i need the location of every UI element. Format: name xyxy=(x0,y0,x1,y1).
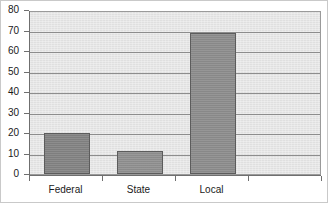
y-tick-label-80: 80 xyxy=(0,5,19,15)
y-tick-20 xyxy=(24,133,29,134)
y-tick-label-10: 10 xyxy=(0,149,19,159)
bar-state xyxy=(117,151,163,174)
y-tick-label-60: 60 xyxy=(0,46,19,56)
x-axis-label-state: State xyxy=(127,184,150,195)
gridline-30 xyxy=(30,114,320,115)
y-tick-label-30: 30 xyxy=(0,108,19,118)
y-tick-label-20: 20 xyxy=(0,128,19,138)
bar-texture xyxy=(118,152,162,173)
y-tick-label-40: 40 xyxy=(0,87,19,97)
y-tick-label-70: 70 xyxy=(0,26,19,36)
gridline-80 xyxy=(30,11,320,12)
y-tick-70 xyxy=(24,31,29,32)
x-tick-2 xyxy=(175,176,176,181)
gridline-70 xyxy=(30,32,320,33)
y-tick-label-0: 0 xyxy=(0,169,19,179)
y-tick-60 xyxy=(24,51,29,52)
y-tick-80 xyxy=(24,10,29,11)
y-tick-label-50: 50 xyxy=(0,67,19,77)
gridline-50 xyxy=(30,73,320,74)
bar-chart-figure: 01020304050607080 FederalStateLocal xyxy=(0,0,328,203)
y-tick-0 xyxy=(24,174,29,175)
bar-federal xyxy=(44,133,90,174)
x-axis-label-local: Local xyxy=(200,184,224,195)
x-tick-1 xyxy=(102,176,103,181)
y-axis-line xyxy=(29,11,30,176)
gridline-60 xyxy=(30,52,320,53)
plot-area xyxy=(29,11,321,175)
bar-local xyxy=(190,33,236,174)
x-tick-0 xyxy=(29,176,30,181)
gridline-40 xyxy=(30,93,320,94)
y-tick-10 xyxy=(24,154,29,155)
bar-texture xyxy=(191,34,235,173)
bar-texture xyxy=(45,134,89,173)
y-tick-40 xyxy=(24,92,29,93)
x-tick-3 xyxy=(248,176,249,181)
x-axis-label-federal: Federal xyxy=(49,184,83,195)
x-tick-4 xyxy=(321,176,322,181)
y-tick-30 xyxy=(24,113,29,114)
y-tick-50 xyxy=(24,72,29,73)
